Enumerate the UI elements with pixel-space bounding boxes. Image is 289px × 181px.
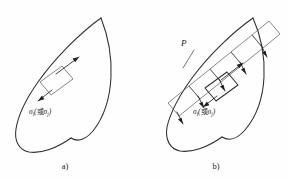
parallelogram-cell-a: [40, 66, 73, 95]
figure-panel-b: P σi(或σj) b): [145, 0, 289, 181]
lens-boundary-a-right: [71, 18, 111, 140]
panel-caption-a: a): [62, 161, 69, 171]
plane-label-leader-b: [183, 50, 194, 68]
sigma-label-a-conjunction: 或: [37, 107, 44, 116]
parallelogram-cell-b-4: [231, 35, 263, 65]
parallelogram-cell-b-2: [189, 69, 221, 99]
lens-boundary-a-left: [16, 18, 101, 152]
panel-caption-b: b): [212, 161, 219, 171]
projection-arrow-b-3-head: [220, 85, 225, 91]
plane-label-b: P: [180, 38, 187, 48]
figure-panel-a: σi(或σj) a): [0, 0, 145, 181]
lens-boundary-b-right: [222, 18, 264, 139]
sigma-label-b-paren-close: ): [212, 107, 216, 116]
sigma-label-a-paren-close: ): [48, 107, 52, 116]
figure-root: σi(或σj) a): [0, 0, 289, 181]
projection-arrow-b-4-head: [241, 68, 246, 74]
projection-arrow-b-1-head: [178, 118, 183, 124]
sigma-label-a: σi(或σj): [29, 107, 52, 117]
sigma-label-b: σi(或σj): [193, 107, 216, 117]
parallelogram-cell-strip-b: [168, 21, 280, 116]
sigma-label-b-conjunction: 或: [201, 107, 208, 116]
